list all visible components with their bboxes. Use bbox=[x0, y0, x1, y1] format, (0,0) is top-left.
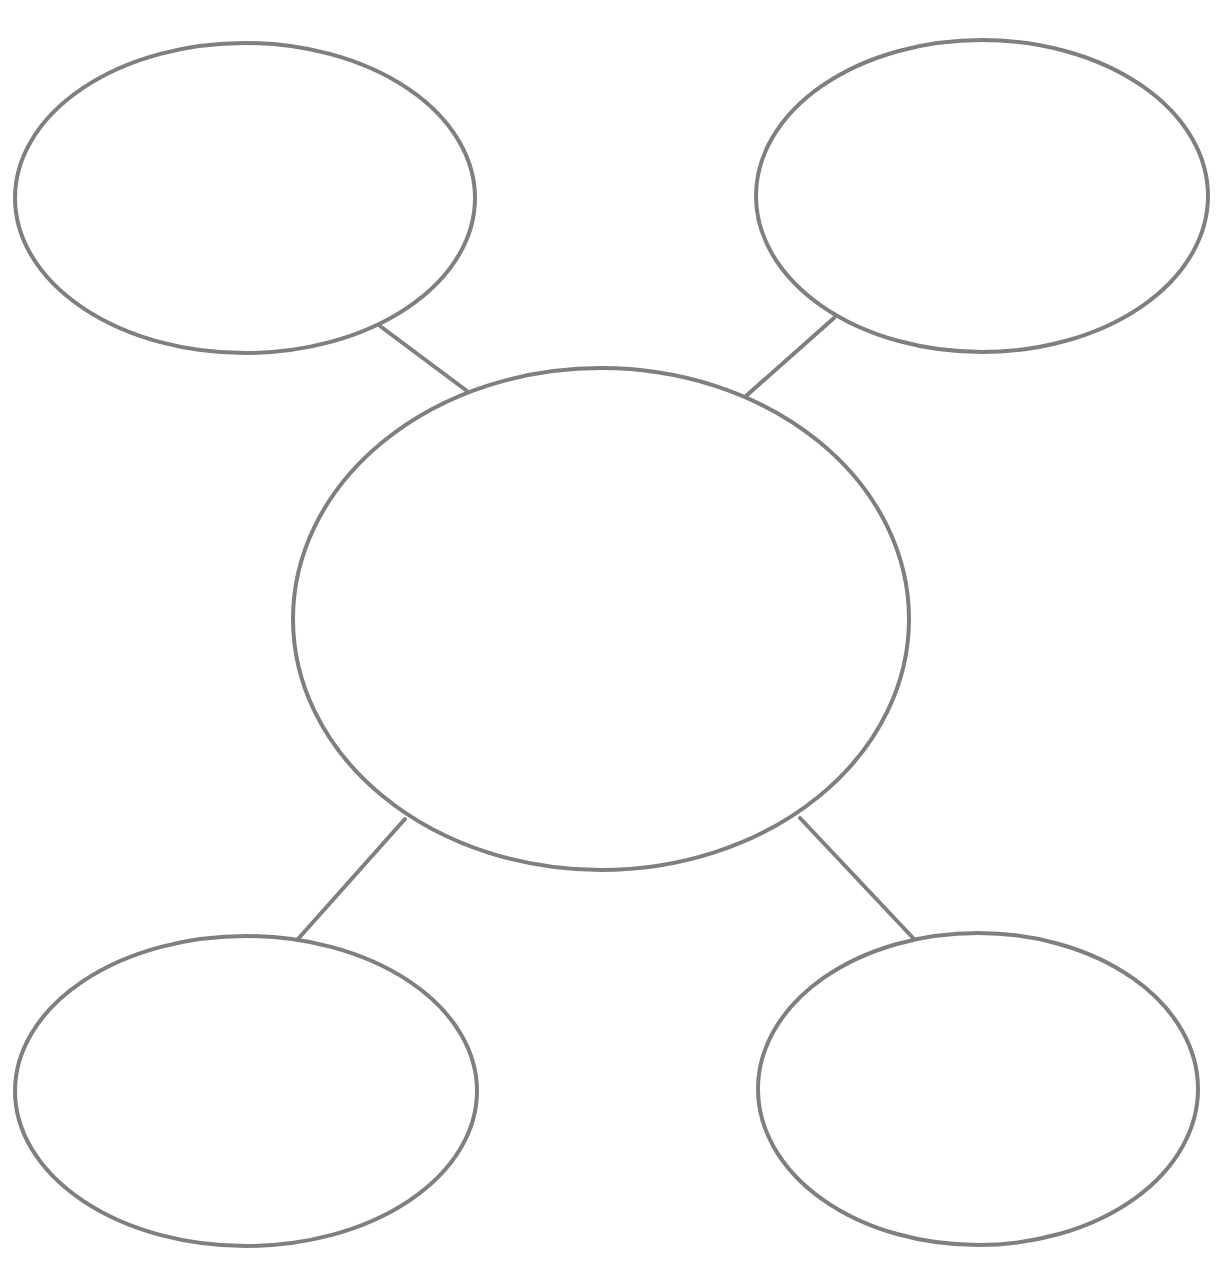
connector-bottom-left bbox=[298, 819, 405, 939]
bubble-nodes bbox=[15, 40, 1208, 1246]
ellipse-bottom-left bbox=[15, 936, 477, 1246]
bubble-map-diagram bbox=[0, 0, 1232, 1281]
connector-top-right bbox=[746, 318, 834, 396]
connector-bottom-right bbox=[800, 818, 914, 939]
connector-top-left bbox=[380, 326, 467, 391]
bubble-top-right bbox=[756, 40, 1208, 352]
bubble-top-left bbox=[15, 43, 475, 353]
ellipse-bottom-right bbox=[758, 933, 1198, 1245]
bubble-bottom-right bbox=[758, 933, 1198, 1245]
bubble-bottom-left bbox=[15, 936, 477, 1246]
ellipse-top-left bbox=[15, 43, 475, 353]
ellipse-center bbox=[293, 368, 909, 870]
ellipse-top-right bbox=[756, 40, 1208, 352]
bubble-center bbox=[293, 368, 909, 870]
